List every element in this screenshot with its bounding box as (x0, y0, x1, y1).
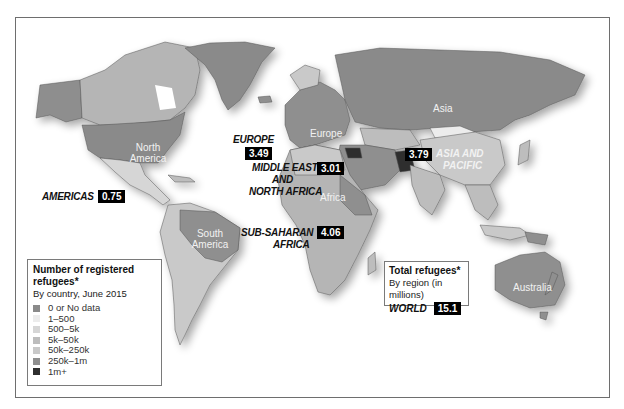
total-title: Total refugees* (389, 265, 464, 277)
label-australia-text: Australia (513, 282, 552, 293)
total-refugees-box: Total refugees* By region (in millions) … (384, 261, 469, 306)
region-label-mena-1: MIDDLE EAST (252, 162, 318, 173)
world-total-row: WORLD 15.1 (389, 302, 464, 315)
legend-swatch (33, 315, 40, 322)
canada (80, 42, 200, 125)
label-europe-text: Europe (310, 128, 342, 139)
region-value-americas: 0.75 (98, 190, 125, 203)
label-north-america: North America (118, 142, 178, 164)
legend-item-label: 1m+ (48, 367, 67, 378)
legend-swatch (33, 368, 40, 375)
region-value-asia: 3.79 (405, 148, 432, 161)
region-label-americas: AMERICAS (42, 191, 94, 202)
region-label-europe: EUROPE (233, 134, 274, 145)
label-asia-text: Asia (433, 103, 452, 114)
region-label-mena-3: NORTH AFRICA (249, 186, 322, 197)
legend-swatch (33, 305, 40, 312)
region-value-europe: 3.49 (245, 147, 272, 160)
legend-item: 1m+ (33, 367, 156, 378)
region-label-ssa-1: SUB-SAHARAN (241, 227, 313, 238)
region-label-mena-2: AND (272, 174, 293, 185)
legend-swatch (33, 347, 40, 354)
legend-subtitle: By country, June 2015 (33, 288, 156, 300)
legend-item-label: 0 or No data (48, 303, 100, 314)
legend-item: 250k–1m (33, 356, 156, 367)
region-value-mena: 3.01 (317, 162, 344, 175)
label-south-america: South America (185, 228, 235, 250)
legend-swatch (33, 358, 40, 365)
legend-swatch (33, 326, 40, 333)
legend-item-label: 250k–1m (48, 356, 87, 367)
label-asia: Asia (433, 103, 452, 114)
label-africa: Africa (320, 192, 346, 203)
label-north-america-text: North America (128, 142, 168, 164)
legend: Number of registered refugees* By countr… (27, 259, 162, 386)
label-south-america-text: South America (190, 228, 230, 250)
legend-item: 0 or No data (33, 303, 156, 314)
region-value-ssa: 4.06 (317, 226, 344, 239)
label-australia: Australia (513, 282, 552, 293)
region-label-asia-2: PACIFIC (443, 160, 482, 171)
label-africa-text: Africa (320, 192, 346, 203)
region-label-asia-1: ASIA AND (436, 148, 484, 159)
russia (335, 48, 585, 132)
world-value: 15.1 (434, 302, 461, 315)
total-subtitle: By region (in millions) (389, 277, 464, 301)
legend-swatch (33, 337, 40, 344)
world-label: WORLD (389, 303, 427, 314)
alaska (36, 80, 82, 122)
region-label-ssa-2: AFRICA (273, 239, 310, 250)
label-europe: Europe (310, 128, 342, 139)
legend-title: Number of registered refugees* (33, 264, 156, 288)
